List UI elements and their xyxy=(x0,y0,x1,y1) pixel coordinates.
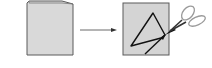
scissors-icon xyxy=(165,4,207,35)
paper-cutting-diagram xyxy=(0,0,212,68)
cut-paper xyxy=(123,3,169,55)
folded-paper xyxy=(27,1,73,55)
right-arrow-icon xyxy=(80,28,117,32)
